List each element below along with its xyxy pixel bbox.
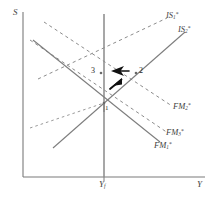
potential-output-label: Yf [99,180,106,190]
figure-canvas: S Y Yf IS1* IS2* FM2* FM3* FM1* 3 2 1 [0,0,216,198]
fm1-sup: * [169,141,172,147]
fm2-sup: * [188,102,191,108]
curve-fm1 [33,40,160,142]
point-label-3: 3 [91,67,95,75]
x-axis-label: Y [197,180,202,189]
arrow-up-right-icon [109,78,122,89]
is2-sup: * [188,25,191,31]
curve-label-fm2: FM2* [173,102,191,111]
y-axis-label: S [13,8,18,17]
fm2-base: FM [173,101,185,111]
fm3-base: FM [166,127,178,137]
curve-is1 [38,18,167,79]
is1-sup: * [176,11,179,17]
fm1-base: FM [154,140,166,150]
fm3-sup: * [181,128,184,134]
curve-is1-lower-extension [30,103,104,128]
yf-sub: f [104,183,106,189]
curve-label-is1: IS1* [166,11,179,20]
point-2-marker [135,72,138,75]
curve-label-fm1: FM1* [154,141,172,150]
point-label-2: 2 [139,67,143,75]
curve-label-is2: IS2* [178,25,191,34]
point-3-marker [100,72,103,75]
curve-label-fm3: FM3* [166,128,184,137]
point-label-1: 1 [105,105,109,112]
